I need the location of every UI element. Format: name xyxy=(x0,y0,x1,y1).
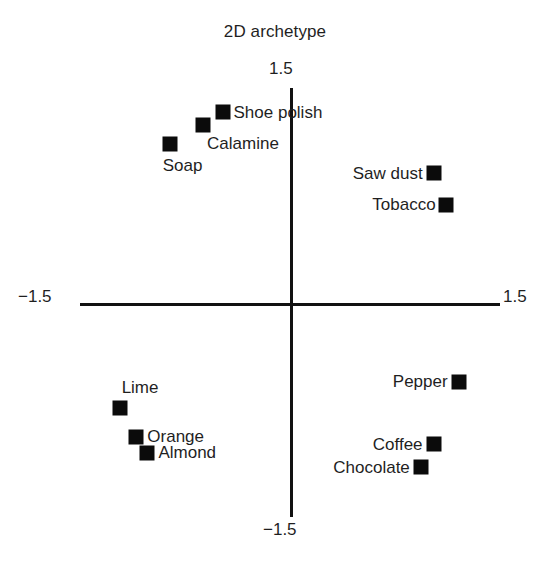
data-point-label: Pepper xyxy=(393,373,448,390)
data-point-marker xyxy=(162,137,177,152)
data-point-marker xyxy=(451,374,466,389)
data-point-label: Almond xyxy=(158,444,216,461)
data-point-marker xyxy=(426,166,441,181)
axis-tick-label-left: −1.5 xyxy=(18,287,52,307)
data-point-label: Calamine xyxy=(207,135,279,152)
data-point-marker xyxy=(129,429,144,444)
horizontal-axis-line xyxy=(80,303,500,306)
data-point-marker xyxy=(426,437,441,452)
data-point-marker xyxy=(112,400,127,415)
data-point-label: Lime xyxy=(122,379,159,396)
data-point-label: Shoe polish xyxy=(234,104,323,121)
scatter-plot-figure: 2D archetype 1.5 −1.5 −1.5 1.5 Shoe poli… xyxy=(0,0,550,564)
data-point-label: Chocolate xyxy=(333,459,410,476)
page-title: 2D archetype xyxy=(0,22,550,42)
data-point-label: Coffee xyxy=(373,436,423,453)
data-point-label: Tobacco xyxy=(372,196,435,213)
data-point-marker xyxy=(439,197,454,212)
data-point-marker xyxy=(140,445,155,460)
data-point-label: Soap xyxy=(163,157,203,174)
data-point-label: Saw dust xyxy=(353,165,423,182)
axis-tick-label-bottom: −1.5 xyxy=(263,520,297,540)
data-point-marker xyxy=(215,105,230,120)
axis-tick-label-right: 1.5 xyxy=(503,287,527,307)
data-point-marker xyxy=(414,460,429,475)
data-point-marker xyxy=(196,118,211,133)
axis-tick-label-top: 1.5 xyxy=(269,59,293,79)
